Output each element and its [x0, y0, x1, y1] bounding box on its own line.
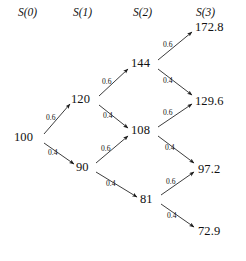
tree-node-n3c: 97.2	[198, 162, 220, 177]
edge-probability-n0-up: 0.6	[46, 113, 56, 122]
edge-probability-n1u-up: 0.6	[102, 77, 112, 86]
tree-node-n3a: 172.8	[195, 20, 224, 35]
edge-probability-n1d-down: 0.4	[106, 179, 116, 188]
edge-probability-n1d-up: 0.6	[101, 144, 111, 153]
edge-n1d-to-n2dd	[96, 172, 137, 197]
tree-node-n2uu: 144	[131, 56, 150, 71]
edge-probability-n2uu-down: 0.4	[163, 76, 173, 85]
tree-node-n2dd: 81	[140, 192, 153, 207]
tree-node-n1d: 90	[76, 160, 89, 175]
edge-line-group	[44, 32, 194, 227]
column-header-s3: S(3)	[196, 6, 215, 18]
tree-node-n2ud: 108	[131, 123, 150, 138]
edge-probability-n2uu-up: 0.6	[163, 40, 173, 49]
column-header-s0: S(0)	[18, 6, 37, 18]
tree-edges-layer	[0, 0, 246, 261]
edge-n2ud-to-n3c	[158, 136, 194, 163]
tree-node-n3b: 129.6	[195, 94, 224, 109]
tree-node-n1u: 120	[71, 92, 90, 107]
edge-probability-n1u-down: 0.4	[103, 111, 113, 120]
column-header-s2: S(2)	[133, 6, 152, 18]
edge-probability-n0-down: 0.4	[48, 148, 58, 157]
column-header-s1: S(1)	[73, 6, 92, 18]
edge-probability-n2dd-up: 0.6	[166, 177, 176, 186]
binomial-tree-diagram: S(0)S(1)S(2)S(3) 1001209014410881172.812…	[0, 0, 246, 261]
edge-n2dd-to-n3d	[161, 204, 194, 227]
edge-probability-n2ud-down: 0.4	[165, 143, 175, 152]
edge-probability-n2dd-down: 0.4	[167, 211, 177, 220]
tree-node-n0: 100	[14, 130, 33, 145]
tree-node-n3d: 72.9	[198, 224, 220, 239]
edge-probability-n2ud-up: 0.6	[163, 108, 173, 117]
